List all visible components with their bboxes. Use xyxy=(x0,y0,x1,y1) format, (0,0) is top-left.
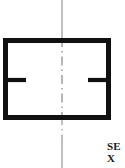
section-label: SE X xyxy=(107,140,125,164)
section-label-line-2: X xyxy=(107,152,125,164)
section-label-line-1: SE xyxy=(107,140,125,152)
drawing-canvas: SE X xyxy=(0,0,125,168)
